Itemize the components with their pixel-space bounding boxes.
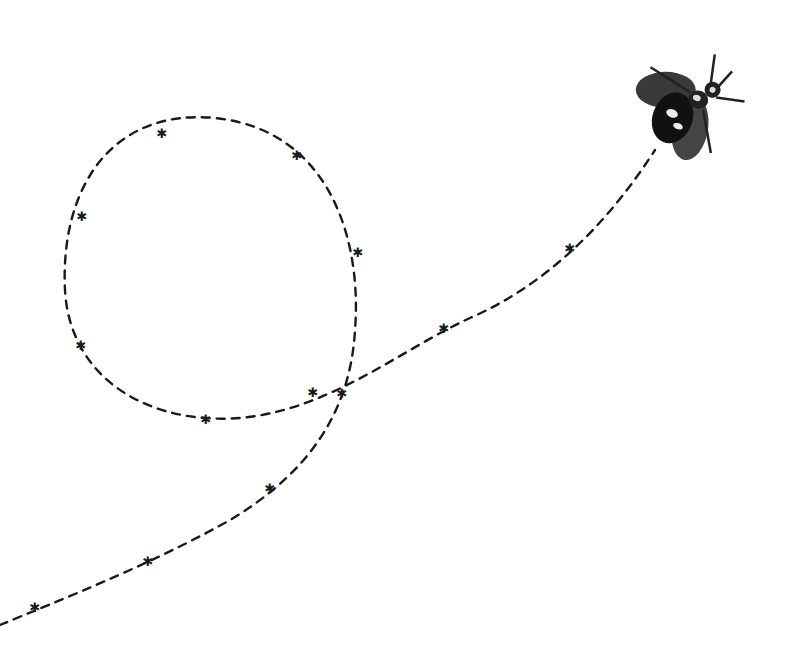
asterisk-marker-icon: ✱ (308, 385, 319, 400)
asterisk-marker-icon: ✱ (337, 386, 348, 401)
asterisk-marker-icon: ✱ (76, 338, 87, 353)
asterisk-marker-icon: ✱ (265, 481, 276, 496)
asterisk-marker-icon: ✱ (77, 209, 88, 224)
asterisk-marker-icon: ✱ (353, 245, 364, 260)
path-markers: ✱✱✱✱✱✱✱✱✱✱✱✱✱ (30, 126, 576, 615)
asterisk-marker-icon: ✱ (439, 321, 450, 336)
asterisk-marker-icon: ✱ (292, 148, 303, 163)
flight-path (0, 117, 655, 625)
asterisk-marker-icon: ✱ (157, 126, 168, 141)
fly-icon (612, 31, 756, 175)
asterisk-marker-icon: ✱ (143, 554, 154, 569)
asterisk-marker-icon: ✱ (565, 241, 576, 256)
asterisk-marker-icon: ✱ (30, 600, 41, 615)
asterisk-marker-icon: ✱ (201, 412, 212, 427)
fly-flight-illustration: ✱✱✱✱✱✱✱✱✱✱✱✱✱ (0, 0, 793, 664)
